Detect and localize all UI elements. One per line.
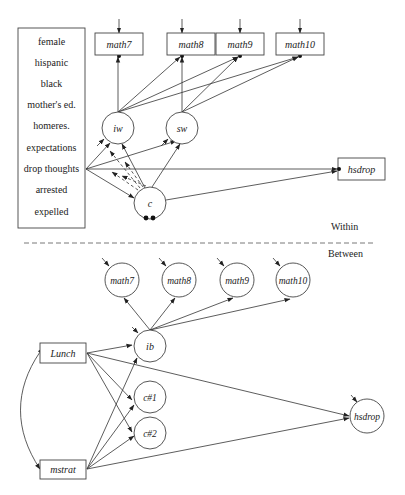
svg-text:ib: ib — [146, 341, 154, 352]
between-ib-factor: ib — [134, 330, 166, 362]
between-c2-intercept: c#2 — [134, 417, 166, 449]
svg-text:hsdrop: hsdrop — [354, 412, 380, 422]
within-hsdrop-box: hsdrop — [337, 158, 385, 180]
class-dashed-effects — [110, 151, 146, 190]
residual-arrow — [351, 395, 357, 402]
svg-text:sw: sw — [177, 123, 188, 134]
within-level: female hispanic black mother's ed. homer… — [18, 19, 385, 232]
lunch-mstrat-covariance — [21, 352, 41, 469]
covariate-paths — [86, 141, 337, 198]
svg-text:c: c — [148, 198, 153, 209]
covariate-label: hispanic — [35, 57, 69, 68]
between-section-label: Between — [328, 248, 363, 259]
covariate-label: mother's ed. — [27, 99, 75, 110]
within-math8-box: math8 — [167, 33, 215, 55]
svg-text:math10: math10 — [279, 276, 308, 286]
within-section-label: Within — [331, 221, 358, 232]
within-math7-box: math7 — [95, 33, 143, 55]
covariate-label: black — [41, 78, 63, 89]
between-math10-intercept: math10 — [276, 263, 310, 297]
between-math7-intercept: math7 — [105, 263, 139, 297]
svg-text:math10: math10 — [285, 39, 315, 50]
c-to-sw-path — [152, 144, 180, 187]
svg-text:mstrat: mstrat — [50, 464, 76, 475]
between-lunch-box: Lunch — [40, 343, 86, 363]
covariate-label: arrested — [36, 184, 68, 195]
within-iw-factor: iw — [102, 112, 134, 144]
residual-arrow — [132, 327, 138, 333]
within-class-c: c — [134, 187, 166, 220]
between-level: Between math7 math8 math9 math10 — [21, 248, 385, 479]
residual-arrow — [273, 258, 280, 266]
within-math10-box: math10 — [276, 33, 324, 55]
svg-text:math7: math7 — [107, 39, 133, 50]
svg-text:c#1: c#1 — [143, 393, 157, 403]
svg-text:Lunch: Lunch — [50, 348, 76, 359]
c-to-hsdrop-path — [166, 171, 337, 200]
ib-loadings — [124, 298, 290, 330]
residual-arrow — [217, 258, 224, 266]
mstrat-paths — [87, 358, 349, 469]
random-intercept-dot — [144, 216, 149, 221]
residual-arrow — [97, 139, 104, 146]
between-math8-intercept: math8 — [162, 263, 196, 297]
residual-arrow — [102, 258, 109, 266]
between-mstrat-box: mstrat — [40, 460, 86, 479]
covariate-label: homeres. — [33, 120, 69, 131]
covariate-label: expectations — [27, 142, 77, 153]
random-intercept-dot — [151, 216, 156, 221]
covariate-label: female — [38, 36, 66, 47]
svg-text:c#2: c#2 — [143, 429, 157, 439]
between-hsdrop-intercept: hsdrop — [350, 399, 384, 433]
svg-text:math9: math9 — [228, 39, 253, 50]
growth-loadings — [118, 57, 298, 112]
path-diagram: female hispanic black mother's ed. homer… — [0, 0, 405, 495]
covariate-label: expelled — [35, 206, 69, 217]
within-sw-factor: sw — [166, 112, 198, 144]
between-c1-intercept: c#1 — [134, 381, 166, 413]
residual-arrow — [159, 258, 166, 266]
covariate-label: drop thoughts — [24, 163, 79, 174]
svg-text:iw: iw — [113, 123, 123, 134]
within-math9-box: math9 — [216, 33, 264, 55]
svg-text:math9: math9 — [225, 276, 249, 286]
lunch-paths — [87, 345, 349, 432]
between-math9-intercept: math9 — [220, 263, 254, 297]
svg-text:math7: math7 — [110, 276, 135, 286]
svg-text:math8: math8 — [179, 39, 204, 50]
c-to-iw-path — [122, 144, 145, 188]
svg-text:hsdrop: hsdrop — [348, 164, 375, 175]
random-intercept-dot — [337, 167, 341, 171]
svg-text:math8: math8 — [167, 276, 191, 286]
